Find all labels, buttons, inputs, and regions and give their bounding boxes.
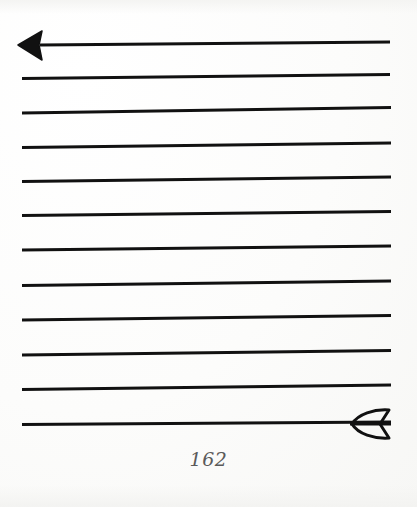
ruled-line bbox=[22, 143, 391, 148]
ruled-line bbox=[22, 281, 391, 286]
ruled-line bbox=[22, 316, 391, 321]
ruled-line bbox=[22, 351, 391, 356]
ruled-line bbox=[22, 177, 391, 182]
arrowhead-triangle bbox=[18, 31, 42, 60]
ruled-line bbox=[22, 75, 390, 79]
ruled-line bbox=[22, 246, 391, 250]
arrowhead-left-icon bbox=[18, 31, 42, 60]
ruled-line bbox=[22, 385, 391, 390]
ruled-line bbox=[22, 212, 391, 216]
arrow-illustration bbox=[0, 0, 417, 507]
scanned-page: 162 bbox=[0, 0, 417, 507]
ruled-line bbox=[22, 108, 391, 114]
ruled-lines-group bbox=[22, 42, 391, 425]
page-number: 162 bbox=[0, 448, 417, 470]
ruled-line bbox=[40, 42, 390, 45]
ruled-line bbox=[22, 422, 391, 425]
arrow-fletching-right-icon bbox=[350, 410, 391, 438]
